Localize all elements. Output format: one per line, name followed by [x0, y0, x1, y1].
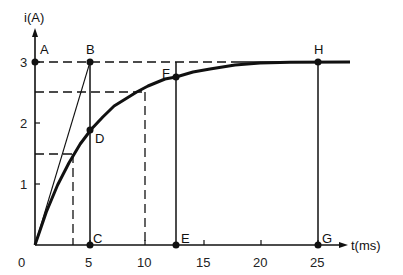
vertical-lines [90, 62, 318, 245]
y-tick-2: 2 [20, 116, 27, 131]
x-tick-15: 15 [196, 255, 210, 270]
point-E [173, 242, 180, 249]
origin-label: 0 [18, 255, 25, 270]
y-axis-arrow-icon [32, 28, 38, 37]
diagram-canvas: 0 5 10 15 20 25 1 2 3 i(A) t(ms) A B [0, 0, 403, 275]
label-E: E [181, 231, 190, 246]
label-H: H [314, 42, 323, 57]
x-tick-5: 5 [85, 255, 92, 270]
label-A: A [40, 42, 49, 57]
x-axis-arrow-icon [339, 242, 348, 248]
x-tick-25: 25 [310, 255, 324, 270]
point-H [315, 59, 322, 66]
point-G [315, 242, 322, 249]
point-B [87, 59, 94, 66]
x-tick-20: 20 [253, 255, 267, 270]
point-F [173, 74, 180, 81]
y-tick-3: 3 [20, 55, 27, 70]
rl-charging-curve-diagram: 0 5 10 15 20 25 1 2 3 i(A) t(ms) A B [0, 0, 403, 275]
label-G: G [322, 231, 332, 246]
label-C: C [93, 231, 102, 246]
x-axis-label: t(ms) [351, 238, 381, 253]
label-D: D [95, 131, 104, 146]
y-axis-label: i(A) [24, 10, 44, 25]
x-tick-10: 10 [137, 255, 151, 270]
label-B: B [86, 42, 95, 57]
point-A [32, 59, 39, 66]
dashed-guides [35, 62, 235, 245]
axes [35, 34, 340, 245]
y-tick-1: 1 [20, 177, 27, 192]
point-D [87, 127, 94, 134]
label-F: F [162, 66, 170, 81]
